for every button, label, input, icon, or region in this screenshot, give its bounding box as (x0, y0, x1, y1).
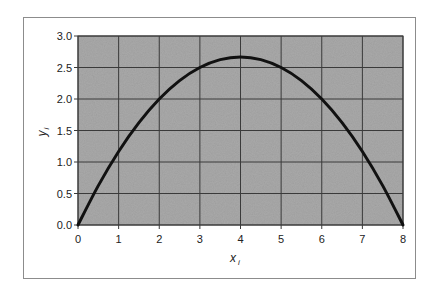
x-tick-label: 0 (75, 233, 81, 245)
y-tick-label: 1.0 (57, 156, 72, 168)
x-tick-label: 4 (237, 233, 243, 245)
y-axis-ticks: 0.00.51.01.52.02.53.0 (57, 30, 72, 231)
x-tick-label: 5 (278, 233, 284, 245)
y-tick-label: 2.5 (57, 62, 72, 74)
y-tick-label: 0.0 (57, 219, 72, 231)
line-chart: 0.00.51.01.52.02.53.0 012345678 xi yi (0, 0, 437, 294)
y-axis-label: yi (35, 127, 51, 137)
x-tick-label: 7 (359, 233, 365, 245)
y-tick-label: 0.5 (57, 188, 72, 200)
x-tick-label: 6 (319, 233, 325, 245)
y-tick-label: 1.5 (57, 125, 72, 137)
y-tick-label: 3.0 (57, 30, 72, 42)
x-tick-label: 3 (197, 233, 203, 245)
x-tick-label: 8 (400, 233, 406, 245)
x-axis-ticks: 012345678 (75, 233, 406, 245)
x-axis-label: xi (229, 251, 240, 267)
x-tick-label: 1 (116, 233, 122, 245)
y-tick-label: 2.0 (57, 93, 72, 105)
x-tick-label: 2 (156, 233, 162, 245)
